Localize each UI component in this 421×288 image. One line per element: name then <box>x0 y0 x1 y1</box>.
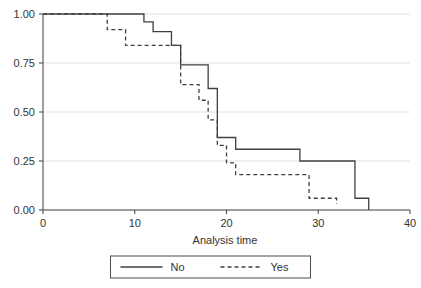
y-tick-label: 0.00 <box>14 204 35 216</box>
x-tick-label: 10 <box>129 217 141 229</box>
y-tick-label: 0.50 <box>14 106 35 118</box>
legend-label-yes: Yes <box>271 261 289 273</box>
y-tick-label: 1.00 <box>14 8 35 20</box>
survival-plot: 0.000.250.500.751.00 010203040 Analysis … <box>0 0 421 288</box>
x-axis-title: Analysis time <box>193 234 258 246</box>
y-tick-label: 0.25 <box>14 155 35 167</box>
x-tick-label: 30 <box>312 217 324 229</box>
y-axis: 0.000.250.500.751.00 <box>14 8 43 216</box>
legend-label-no: No <box>171 261 185 273</box>
y-tick-label: 0.75 <box>14 57 35 69</box>
kaplan-meier-figure: 0.000.250.500.751.00 010203040 Analysis … <box>0 0 421 288</box>
x-tick-label: 40 <box>404 217 416 229</box>
series-line-yes <box>43 14 337 204</box>
x-axis: 010203040 <box>40 210 416 229</box>
x-tick-label: 20 <box>220 217 232 229</box>
x-axis-title-group: Analysis time <box>193 234 258 246</box>
legend: NoYes <box>111 256 311 278</box>
x-tick-label: 0 <box>40 217 46 229</box>
